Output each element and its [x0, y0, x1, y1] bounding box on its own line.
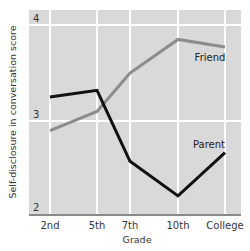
line-chart: 234 2nd5th7th10thCollege FriendParent Se…: [0, 0, 250, 251]
x-tick-label: 2nd: [40, 220, 59, 231]
x-tick-label: 7th: [122, 220, 139, 231]
x-tick-labels: 2nd5th7th10thCollege: [40, 220, 243, 231]
y-tick-label: 3: [33, 109, 39, 120]
y-axis-title: Self-disclosure in conversation score: [7, 25, 18, 198]
series-label-parent: Parent: [193, 139, 225, 150]
x-axis-title: Grade: [123, 234, 152, 245]
y-tick-label: 2: [33, 202, 39, 213]
y-tick-label: 4: [33, 13, 39, 24]
plot-background: [29, 10, 241, 215]
x-tick-label: 10th: [167, 220, 190, 231]
x-tick-label: College: [206, 220, 243, 231]
series-label-friend: Friend: [195, 52, 226, 63]
x-tick-label: 5th: [89, 220, 106, 231]
